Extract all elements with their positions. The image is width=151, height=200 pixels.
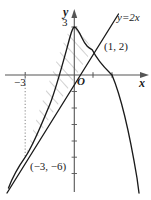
line-equation-label: y=2x (117, 12, 140, 23)
shaded-region (0, 0, 151, 200)
math-figure: y x O 3 −3 y=2x (1, 2) (−3, −6) (0, 0, 151, 200)
origin-label: O (77, 76, 85, 87)
plot-canvas (0, 0, 151, 200)
point-label-neg3-neg6: (−3, −6) (30, 161, 66, 172)
y-tick-label-3: 3 (62, 17, 68, 28)
x-tick-label-neg3: −3 (14, 77, 26, 88)
x-axis-label: x (139, 77, 145, 89)
point-label-1-2: (1, 2) (104, 41, 128, 52)
